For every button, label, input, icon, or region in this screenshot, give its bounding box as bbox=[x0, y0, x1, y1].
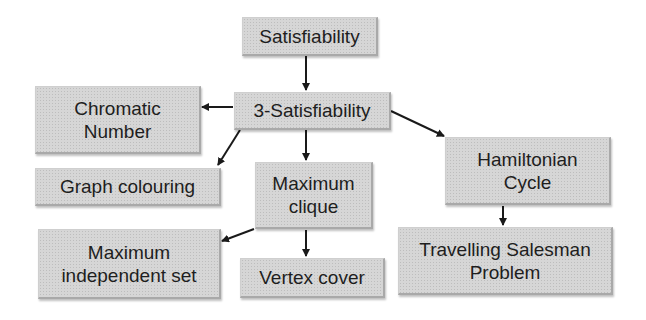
node-hamiltonian-cycle: Hamiltonian Cycle bbox=[445, 137, 611, 205]
node-vertex-cover: Vertex cover bbox=[240, 258, 385, 298]
arrow-3sat-to-graph-colouring bbox=[218, 130, 240, 165]
node-3-satisfiability: 3-Satisfiability bbox=[234, 92, 391, 130]
node-graph-colouring: Graph colouring bbox=[35, 168, 221, 206]
node-maximum-independent-set: Maximum independent set bbox=[38, 229, 221, 299]
node-maximum-clique: Maximum clique bbox=[255, 162, 373, 229]
arrow-3sat-to-hamiltonian bbox=[391, 111, 444, 136]
arrow-clique-to-max-indep bbox=[222, 229, 254, 241]
node-satisfiability: Satisfiability bbox=[242, 17, 378, 56]
node-chromatic-number: Chromatic Number bbox=[35, 86, 201, 154]
node-travelling-salesman-problem: Travelling Salesman Problem bbox=[398, 227, 613, 295]
reduction-diagram: Satisfiability 3-Satisfiability Chromati… bbox=[0, 0, 646, 320]
